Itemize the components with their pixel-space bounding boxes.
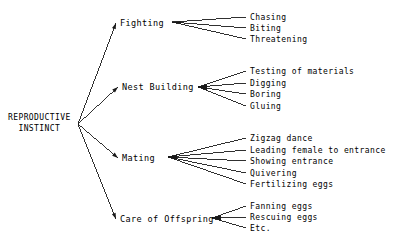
arrowhead-branch-0 — [112, 23, 116, 29]
root-label-line-2: INSTINCT — [8, 124, 71, 135]
leaf-label-fanning-eggs[interactable]: Fanning eggs — [250, 202, 313, 212]
branch-label-mating[interactable]: Mating — [122, 153, 155, 163]
leaf-label-zigzag-dance[interactable]: Zigzag dance — [250, 134, 313, 144]
leaf-label-biting[interactable]: Biting — [250, 24, 281, 34]
edge-branch-2-leaf-0 — [168, 138, 246, 157]
leaf-label-digging[interactable]: Digging — [250, 79, 287, 89]
branch-label-care-of-offspring[interactable]: Care of Offspring — [120, 214, 214, 224]
leaf-label-boring[interactable]: Boring — [250, 90, 281, 100]
leaf-label-etc[interactable]: Etc. — [250, 224, 271, 234]
fan-wedge-1 — [198, 84, 207, 91]
edge-root-to-branch-2 — [78, 124, 118, 158]
leaf-label-threatening[interactable]: Threatening — [250, 35, 307, 45]
leaf-label-leading-female-to-entrance[interactable]: Leading female to entrance — [250, 146, 386, 156]
leaf-label-testing-of-materials[interactable]: Testing of materials — [250, 67, 354, 77]
leaf-label-quivering[interactable]: Quivering — [250, 169, 297, 179]
edge-branch-0-leaf-0 — [172, 17, 246, 22]
edge-branch-2-leaf-1 — [168, 150, 246, 157]
leaf-label-chasing[interactable]: Chasing — [250, 13, 287, 23]
diagram-canvas: REPRODUCTIVEINSTINCTFightingChasingBitin… — [0, 0, 396, 238]
root-node-label: REPRODUCTIVEINSTINCT — [8, 113, 71, 134]
leaf-label-gluing[interactable]: Gluing — [250, 102, 281, 112]
edge-root-to-branch-1 — [78, 87, 118, 124]
root-label-line-1: REPRODUCTIVE — [8, 113, 71, 124]
edge-root-to-branch-3 — [78, 124, 116, 219]
leaf-label-rescuing-eggs[interactable]: Rescuing eggs — [250, 213, 318, 223]
branch-label-nest-building[interactable]: Nest Building — [122, 82, 194, 92]
leaf-label-fertilizing-eggs[interactable]: Fertilizing eggs — [250, 180, 333, 190]
leaf-label-showing-entrance[interactable]: Showing entrance — [250, 157, 333, 167]
edge-root-to-branch-0 — [78, 23, 116, 124]
branch-label-fighting[interactable]: Fighting — [120, 18, 164, 28]
arrowhead-branch-3 — [112, 213, 116, 219]
edge-branch-3-leaf-0 — [212, 206, 246, 218]
